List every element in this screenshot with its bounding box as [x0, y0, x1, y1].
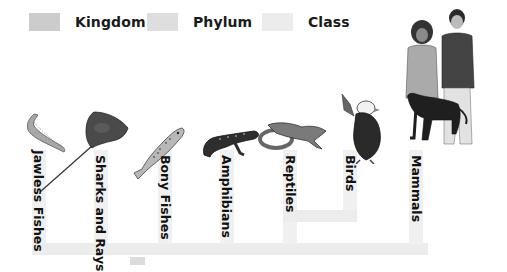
- legend-label-phylum: Phylum: [193, 14, 252, 30]
- taxon-label-mammals: Mammals: [409, 155, 423, 222]
- taxon-label-birds: Birds: [343, 155, 357, 191]
- legend-item-phylum: Phylum: [147, 13, 252, 31]
- legend-label-class: Class: [308, 14, 350, 30]
- legend-swatch-kingdom: [29, 13, 60, 31]
- taxon-label-reptiles: Reptiles: [283, 155, 297, 213]
- taxon-label-bony-fishes: Bony Fishes: [158, 155, 172, 240]
- taxon-label-sharks-and-rays: Sharks and Rays: [93, 155, 107, 272]
- eagle-icon: [336, 92, 388, 164]
- tree-base-branch: [32, 243, 428, 255]
- people-with-dog-icon: [402, 8, 482, 158]
- legend-swatch-phylum: [147, 13, 178, 31]
- snake-and-lizard-icon: [258, 117, 330, 157]
- tree-root-stub: [130, 257, 145, 265]
- legend-item-class: Class: [262, 13, 350, 31]
- legend-swatch-class: [262, 13, 293, 31]
- taxon-label-jawless-fishes: Jawless Fishes: [31, 150, 45, 252]
- legend-item-kingdom: Kingdom: [29, 13, 146, 31]
- stingray-icon: [36, 110, 136, 200]
- legend-label-kingdom: Kingdom: [75, 14, 146, 30]
- taxon-label-amphibians: Amphibians: [219, 155, 233, 238]
